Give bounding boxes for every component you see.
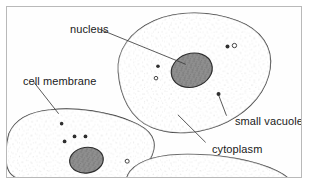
cell-diagram-figure: nucleus cell membrane small vacuole cyto… (0, 0, 310, 185)
cell-bottom-right (126, 154, 299, 177)
label-small-vacuole: small vacuole (235, 116, 302, 127)
vacuole-dot (60, 122, 64, 126)
vacuole-dot (63, 140, 67, 144)
vacuole-dot (73, 135, 77, 139)
vacuole-dot (125, 159, 129, 163)
vacuole-dot (232, 43, 236, 47)
label-cytoplasm: cytoplasm (212, 144, 262, 155)
vacuole-dot (226, 45, 230, 49)
label-nucleus: nucleus (70, 24, 109, 35)
cell-left (7, 109, 154, 177)
figure-frame: nucleus cell membrane small vacuole cyto… (6, 6, 302, 178)
vacuole-dot (154, 76, 158, 80)
vacuole-dot (84, 135, 88, 139)
cytoplasm-texture-bottom (126, 154, 299, 177)
vacuole-dot (156, 65, 160, 69)
label-cell-membrane: cell membrane (23, 76, 96, 87)
